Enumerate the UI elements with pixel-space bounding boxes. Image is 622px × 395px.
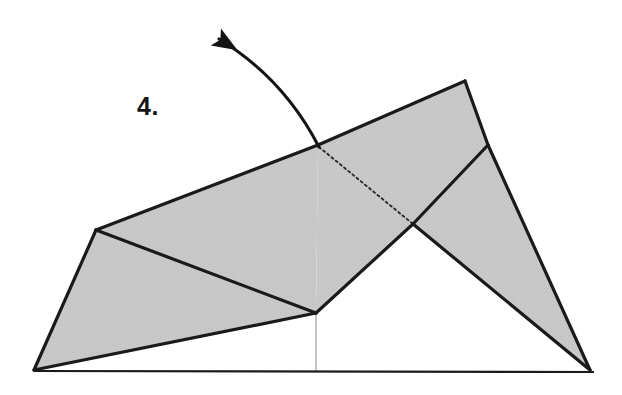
- origami-figure-svg: [0, 0, 622, 395]
- unfold-arrow-icon: [219, 39, 319, 147]
- baseline-group: [34, 371, 594, 372]
- step-number-label: 4.: [137, 94, 159, 119]
- baseline: [34, 371, 594, 372]
- unfold-arrow-group: [219, 39, 319, 147]
- origami-diagram: 4.: [0, 0, 622, 395]
- shaded-paper-regions: [34, 81, 590, 370]
